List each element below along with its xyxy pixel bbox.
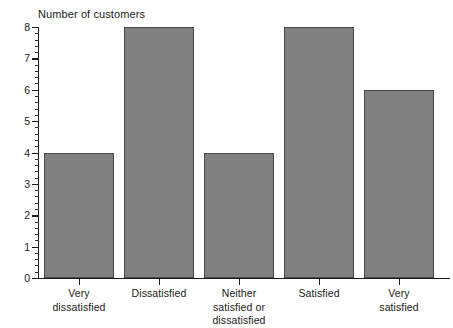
y-axis-tick-minor — [35, 96, 39, 97]
bar — [204, 153, 274, 279]
y-axis-tick-minor — [35, 65, 39, 66]
y-axis-tick-minor — [35, 46, 39, 47]
x-axis-tick — [399, 279, 400, 285]
y-axis-tick-major — [32, 153, 39, 154]
y-axis-tick-minor — [35, 178, 39, 179]
y-axis-tick-major — [32, 27, 39, 28]
bar — [284, 27, 354, 278]
y-axis-tick-minor — [35, 190, 39, 191]
y-axis-tick-major — [32, 215, 39, 216]
y-axis-tick-minor — [35, 209, 39, 210]
x-axis-category-label: Verysatisfied — [352, 287, 446, 314]
y-axis-tick-label: 0 — [24, 272, 30, 284]
x-axis-category-label-line: satisfied — [352, 301, 446, 315]
y-axis-tick-minor — [35, 265, 39, 266]
x-axis-category-label-line: Very — [352, 287, 446, 301]
y-axis-tick-minor — [35, 146, 39, 147]
y-axis-tick-label: 4 — [24, 147, 30, 159]
y-axis-tick-label: 6 — [24, 84, 30, 96]
x-axis-category-label-line: dissatisfied — [192, 314, 286, 328]
y-axis-tick-minor — [35, 71, 39, 72]
y-axis-tick-minor — [35, 52, 39, 53]
x-axis-line — [38, 278, 450, 279]
bar — [44, 153, 114, 279]
bar — [124, 27, 194, 278]
chart-title: Number of customers — [38, 8, 145, 20]
y-axis-tick-minor — [35, 228, 39, 229]
y-axis-tick-minor — [35, 77, 39, 78]
y-axis-tick-minor — [35, 33, 39, 34]
y-axis-tick-minor — [35, 253, 39, 254]
y-axis-tick-minor — [35, 259, 39, 260]
y-axis-tick-label: 7 — [24, 52, 30, 64]
y-axis-tick-major — [32, 121, 39, 122]
plot-area: 012345678 — [39, 27, 450, 278]
y-axis-tick-label: 8 — [24, 21, 30, 33]
y-axis-tick-label: 1 — [24, 241, 30, 253]
y-axis-tick-minor — [35, 234, 39, 235]
y-axis-tick-minor — [35, 165, 39, 166]
y-axis-tick-label: 3 — [24, 178, 30, 190]
y-axis-tick-major — [32, 90, 39, 91]
y-axis-tick-minor — [35, 109, 39, 110]
y-axis-tick-minor — [35, 83, 39, 84]
x-axis-tick — [159, 279, 160, 285]
x-axis-tick — [239, 279, 240, 285]
y-axis-tick-minor — [35, 127, 39, 128]
bar — [364, 90, 434, 278]
y-axis-tick-minor — [35, 222, 39, 223]
x-axis-category-label-line: dissatisfied — [32, 301, 126, 315]
y-axis-tick-minor — [35, 40, 39, 41]
y-axis-tick-major — [32, 278, 39, 279]
y-axis-tick-major — [32, 184, 39, 185]
y-axis-tick-minor — [35, 134, 39, 135]
x-axis-category-label-line: satisfied or — [192, 301, 286, 315]
y-axis-tick-minor — [35, 272, 39, 273]
y-axis-tick-label: 5 — [24, 115, 30, 127]
y-axis-tick-minor — [35, 115, 39, 116]
y-axis-tick-minor — [35, 196, 39, 197]
x-axis-tick — [319, 279, 320, 285]
y-axis-tick-major — [32, 247, 39, 248]
y-axis-tick-minor — [35, 102, 39, 103]
y-axis-tick-major — [32, 58, 39, 59]
y-axis-tick-label: 2 — [24, 209, 30, 221]
x-axis-tick — [79, 279, 80, 285]
y-axis-tick-minor — [35, 240, 39, 241]
y-axis-tick-minor — [35, 159, 39, 160]
y-axis-tick-minor — [35, 171, 39, 172]
y-axis-tick-minor — [35, 140, 39, 141]
y-axis-tick-minor — [35, 203, 39, 204]
